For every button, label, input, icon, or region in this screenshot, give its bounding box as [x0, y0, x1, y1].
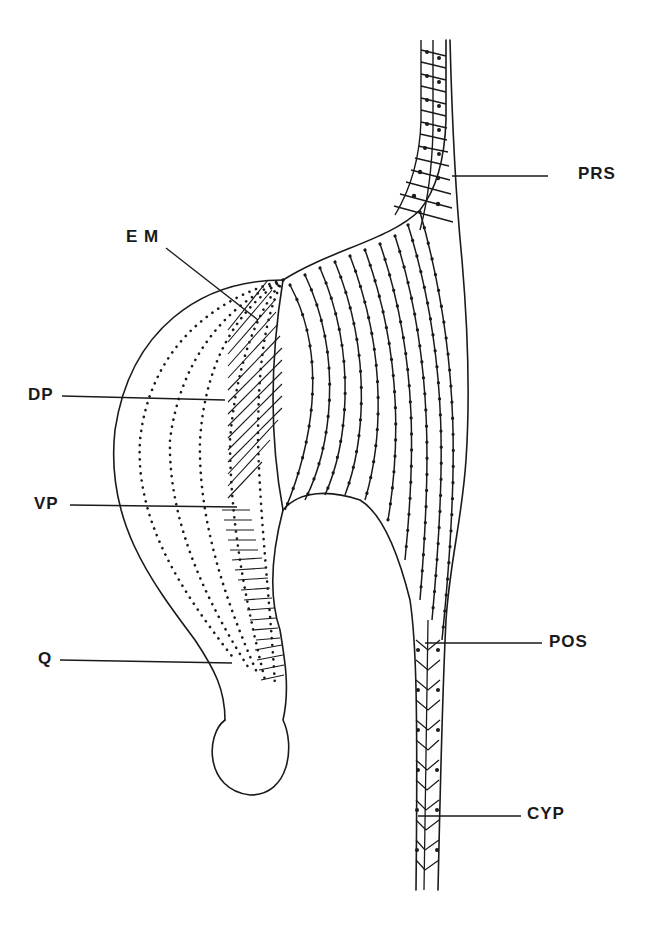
label-dp: DP [28, 385, 54, 405]
label-pos: POS [549, 632, 588, 652]
anatomical-diagram [0, 0, 669, 928]
label-q: Q [38, 649, 52, 669]
leader-dp [62, 396, 225, 400]
label-prs: PRS [578, 164, 616, 184]
condyle-outline [212, 510, 289, 795]
leader-q [60, 660, 232, 663]
label-em: E M [126, 227, 159, 247]
label-cyp: CYP [527, 804, 565, 824]
leader-vp [70, 505, 237, 507]
label-vp: VP [34, 494, 59, 514]
inner-arch [283, 493, 417, 890]
